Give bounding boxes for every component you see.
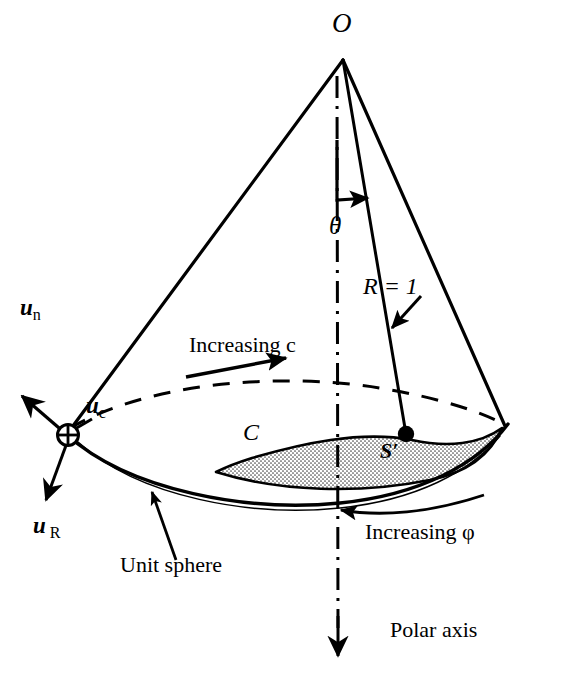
vector-u-R-label: u R xyxy=(33,514,61,541)
vector-u-c-subscript: c xyxy=(99,404,106,421)
circle-plus-icon xyxy=(58,425,79,446)
cone-edge-left xyxy=(67,60,343,434)
apex-label: O xyxy=(332,10,352,37)
polar-axis-label: Polar axis xyxy=(390,619,477,641)
increasing-phi-arrow xyxy=(341,495,484,513)
vector-u-R-symbol: u xyxy=(33,513,46,538)
vector-u-n-symbol: u xyxy=(20,295,33,320)
surface-S-prime-label: S′ xyxy=(380,440,398,462)
theta-label: θ xyxy=(329,213,341,238)
increasing-c-arrow xyxy=(186,358,286,377)
radius-leader-arrow xyxy=(392,296,421,328)
contour-C-label: C xyxy=(243,420,259,444)
unit-sphere-leader-arrow xyxy=(152,492,176,560)
vector-u-c-symbol: u xyxy=(86,393,99,418)
cone-edge-right xyxy=(343,60,505,426)
vector-u-R xyxy=(46,440,68,500)
radius-label: R = 1 xyxy=(363,274,418,298)
vector-u-n-subscript: n xyxy=(33,306,41,323)
vector-u-R-subscript: R xyxy=(50,524,61,541)
figure-container: O θ R = 1 un uc u R Increasing c C S′ In… xyxy=(0,0,563,686)
vector-u-c-label: uc xyxy=(86,394,106,421)
radial-line-R xyxy=(343,60,406,434)
theta-angle-arc xyxy=(337,140,368,200)
vector-u-n-label: un xyxy=(20,296,41,323)
unit-sphere-label: Unit sphere xyxy=(120,554,222,576)
cone-base-dashed-ellipse xyxy=(70,381,505,428)
increasing-c-label: Increasing c xyxy=(189,334,296,356)
increasing-phi-label: Increasing φ xyxy=(365,521,475,543)
radial-endpoint-dot xyxy=(398,426,414,442)
